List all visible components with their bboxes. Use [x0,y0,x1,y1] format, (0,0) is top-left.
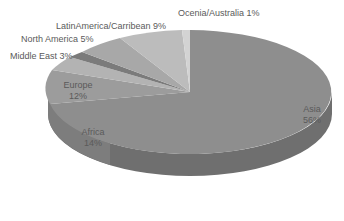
label-asia-pct: 56% [300,115,324,126]
label-middle-east: Middle East 3% [10,51,73,62]
label-africa-pct: 14% [78,138,108,149]
label-europe-pct: 12% [60,91,96,102]
label-africa: Africa 14% [78,127,108,149]
label-africa-name: Africa [78,127,108,138]
label-asia-name: Asia [300,104,324,115]
label-asia: Asia 56% [300,104,324,126]
label-latin-america: LatinAmerica/Carribean 9% [56,21,166,32]
label-europe: Europe 12% [60,80,96,102]
label-oceania: Ocenia/Australia 1% [178,8,260,19]
label-north-america: North America 5% [21,34,94,45]
label-europe-name: Europe [60,80,96,91]
